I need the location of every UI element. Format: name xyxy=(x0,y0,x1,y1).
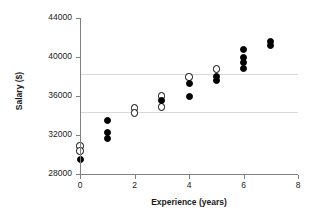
data-point-open xyxy=(213,65,220,72)
x-axis-tick xyxy=(298,175,299,179)
x-axis-tick-label: 0 xyxy=(70,181,90,190)
y-axis-line xyxy=(80,18,81,175)
data-point-filled xyxy=(186,80,193,87)
data-point-filled xyxy=(186,93,193,100)
data-point-filled xyxy=(240,46,247,53)
x-axis-tick-label: 2 xyxy=(125,181,145,190)
y-axis-tick xyxy=(76,135,80,136)
gridline xyxy=(80,112,298,113)
x-axis-tick xyxy=(189,175,190,179)
x-axis-tick-label: 6 xyxy=(234,181,254,190)
y-axis-tick-label: 32000 xyxy=(26,130,72,139)
x-axis-tick xyxy=(135,175,136,179)
y-axis-tick xyxy=(76,57,80,58)
scatter-chart: Experience (years) Salary ($) 2800032000… xyxy=(0,0,319,217)
y-axis-tick-label: 28000 xyxy=(26,169,72,178)
y-axis-tick-label: 44000 xyxy=(26,13,72,22)
data-point-open xyxy=(158,103,165,110)
y-axis-tick-label: 36000 xyxy=(26,91,72,100)
data-point-filled xyxy=(104,117,111,124)
x-axis-tick xyxy=(80,175,81,179)
data-point-open xyxy=(131,109,138,116)
x-axis-title: Experience (years) xyxy=(80,197,298,207)
data-point-filled xyxy=(104,135,111,142)
x-axis-tick-label: 8 xyxy=(288,181,308,190)
data-point-filled xyxy=(213,77,220,84)
x-axis-tick-label: 4 xyxy=(179,181,199,190)
plot-area xyxy=(80,18,298,174)
x-axis-tick xyxy=(244,175,245,179)
y-axis-tick xyxy=(76,96,80,97)
y-axis-tick xyxy=(76,18,80,19)
y-axis-tick-label: 40000 xyxy=(26,52,72,61)
data-point-filled xyxy=(267,42,274,49)
data-point-filled xyxy=(240,65,247,72)
y-axis-title: Salary ($) xyxy=(14,36,24,146)
